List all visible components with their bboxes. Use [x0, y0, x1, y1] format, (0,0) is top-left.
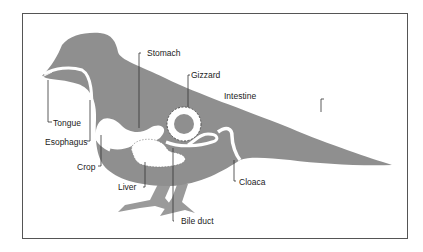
label-liver: Liver: [118, 182, 136, 192]
label-bile-duct: Bile duct: [181, 216, 214, 226]
label-cloaca: Cloaca: [239, 177, 265, 187]
label-crop: Crop: [77, 162, 95, 172]
label-intestine: Intestine: [224, 91, 256, 101]
label-stomach: Stomach: [147, 48, 181, 58]
label-gizzard: Gizzard: [191, 70, 220, 80]
label-tongue: Tongue: [53, 118, 81, 128]
label-esophagus: Esophagus: [45, 137, 88, 147]
